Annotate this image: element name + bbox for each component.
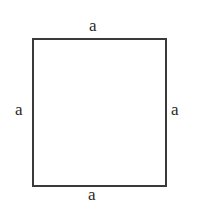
square-diagram: a a a a: [0, 0, 208, 209]
side-label-bottom: a: [88, 186, 96, 203]
side-label-left: a: [15, 101, 23, 118]
square-shape: [32, 38, 167, 187]
side-label-right: a: [171, 101, 179, 118]
side-label-top: a: [89, 17, 97, 34]
